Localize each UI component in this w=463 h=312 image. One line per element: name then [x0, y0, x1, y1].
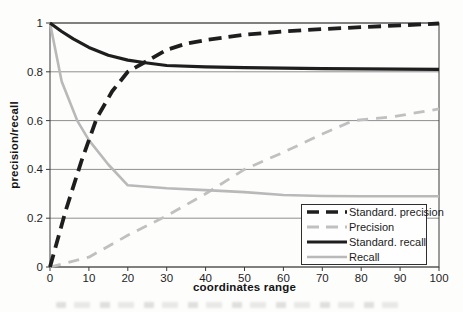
x-axis-title: coordinates range	[50, 281, 439, 293]
legend-label: Standard. precision	[349, 206, 444, 218]
legend-item-standard-precision: Standard. precision	[302, 205, 426, 220]
y-tick-label: 0.6	[27, 115, 43, 127]
legend-line-sample	[306, 221, 348, 233]
legend-box: Standard. precisionPrecisionStandard. re…	[301, 204, 427, 265]
legend-line-sample	[306, 236, 348, 248]
y-tick-label: 0.4	[27, 163, 44, 175]
legend-label: Standard. recall	[349, 236, 426, 248]
figure-page: { "colors": { "background": "#fdfdfc", "…	[0, 0, 463, 312]
y-tick-label: 0	[37, 261, 43, 273]
y-axis-title: precision/recall	[7, 80, 21, 210]
legend-label: Recall	[349, 251, 380, 263]
y-tick-label: 0.8	[27, 66, 43, 78]
legend-item-standard-recall: Standard. recall	[302, 235, 426, 250]
cropped-caption-remnant	[56, 302, 408, 308]
legend-line-sample	[306, 206, 348, 218]
legend-item-recall: Recall	[302, 249, 426, 264]
series-line-standard-recall	[50, 23, 439, 69]
y-tick-label: 0.2	[27, 212, 43, 224]
legend-item-precision: Precision	[302, 220, 426, 235]
chart-svg: 00.20.40.60.810102030405060708090100	[0, 0, 463, 312]
legend-label: Precision	[349, 221, 394, 233]
legend-line-sample	[306, 251, 348, 263]
y-tick-label: 1	[37, 17, 43, 29]
